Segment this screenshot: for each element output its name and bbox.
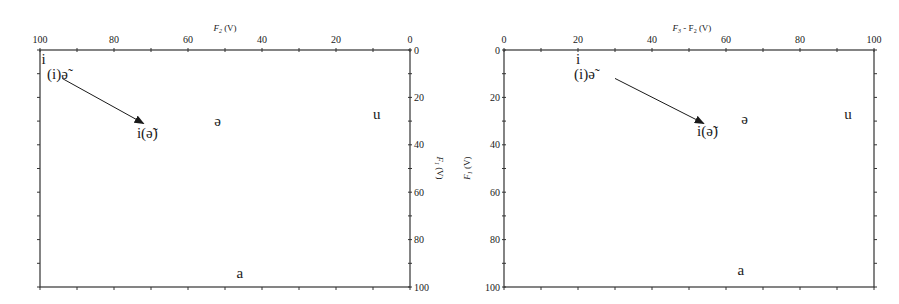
x-tick-label: 80 <box>795 34 805 45</box>
y-tick-label: 60 <box>414 187 424 198</box>
y-axis-title: F1 (V) <box>462 156 473 180</box>
vowel-point-label: i(ə̃) <box>697 123 718 140</box>
data-points: i(i)ə̃i(ə̃)əua <box>574 51 852 278</box>
y-axis-left: 020406080100 <box>485 45 506 293</box>
data-points: i(i)ə̃i(ə̃)əua <box>42 51 381 280</box>
plot-frame <box>504 50 874 287</box>
y-tick-label: 100 <box>414 282 429 293</box>
arrow-line <box>62 78 143 123</box>
x-tick-label: 20 <box>331 34 341 45</box>
arrow-annotation <box>615 78 704 123</box>
x-tick-label: 0 <box>408 34 413 45</box>
x-tick-label: 40 <box>257 34 267 45</box>
y-tick-label: 80 <box>414 234 424 245</box>
y-tick-label: 20 <box>414 92 424 103</box>
plot-frame <box>40 50 410 287</box>
vowel-point-label: ə <box>214 113 221 129</box>
y-tick-label: 0 <box>495 45 500 56</box>
chart-f3f2-vs-f1: 020406080100 020406080100 F3 - F2 (V) F1… <box>450 0 899 304</box>
vowel-point-label: a <box>236 265 243 281</box>
y-tick-label: 40 <box>414 139 424 150</box>
x-tick-label: 20 <box>573 34 583 45</box>
x-axis-top: 100806040200 <box>33 34 413 52</box>
x-tick-label: 100 <box>33 34 48 45</box>
vowel-point-label: ə <box>741 111 748 127</box>
chart-f2-vs-f1: 100806040200 020406080100 F2 (V) F1 (V) … <box>0 0 450 304</box>
vowel-point-label: i(ə̃) <box>137 125 158 142</box>
x-tick-label: 0 <box>502 34 507 45</box>
x-tick-label: 60 <box>183 34 193 45</box>
y-tick-label: 60 <box>490 187 500 198</box>
y-tick-label: 80 <box>490 234 500 245</box>
vowel-point-label: i <box>42 51 46 67</box>
y-axis-title: F1 (V) <box>434 155 445 179</box>
x-axis-title: F3 - F2 (V) <box>672 23 712 34</box>
y-axis-right: 020406080100 <box>408 45 429 293</box>
x-tick-label: 40 <box>647 34 657 45</box>
x-tick-label: 60 <box>721 34 731 45</box>
vowel-point-label: u <box>373 106 381 122</box>
y-tick-label: 100 <box>485 282 500 293</box>
vowel-point-label: a <box>737 262 744 278</box>
vowel-point-label: (i)ə̃ <box>47 66 73 83</box>
x-tick-label: 80 <box>109 34 119 45</box>
x-axis-top: 020406080100 <box>502 34 882 52</box>
y-tick-label: 20 <box>490 92 500 103</box>
x-tick-label: 100 <box>867 34 882 45</box>
vowel-point-label: u <box>844 106 852 122</box>
arrow-line <box>615 78 704 123</box>
x-axis-title: F2 (V) <box>212 23 236 34</box>
y-tick-label: 0 <box>414 45 419 56</box>
arrow-annotation <box>62 78 143 123</box>
vowel-point-label: (i)ə̃ <box>574 66 600 83</box>
y-tick-label: 40 <box>490 139 500 150</box>
